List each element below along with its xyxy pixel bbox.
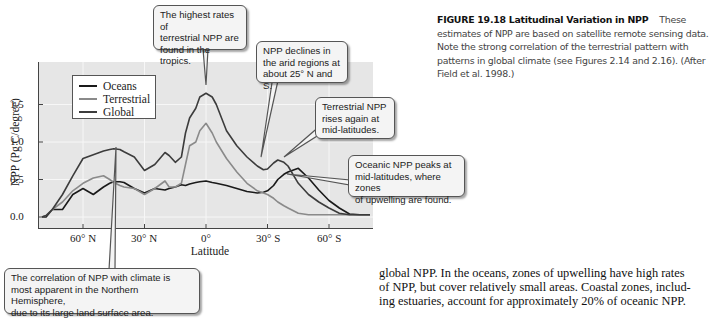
legend-swatch-oceans <box>79 85 97 87</box>
callout-oceanic: Oceanic NPP peaks at mid-latitudes, wher… <box>348 155 465 197</box>
y-tick-0: 0.0 <box>10 210 24 222</box>
legend-label-terrestrial: Terrestrial <box>103 93 150 105</box>
x-tick-30s: 30° S <box>256 232 280 244</box>
body-line-3: ing estuaries, account for approximately… <box>379 294 719 308</box>
legend-item-global: Global <box>79 105 155 118</box>
legend-label-oceans: Oceans <box>103 80 137 92</box>
body-line-2: of NPP, but cover relatively small areas… <box>379 280 719 294</box>
callout-northern-line-1: The correlation of NPP with climate is <box>11 272 193 284</box>
callout-northern-line-2: most apparent in the Northern Hemisphere… <box>11 284 193 307</box>
callout-northern-hemisphere: The correlation of NPP with climate is m… <box>4 268 200 314</box>
body-paragraph: global NPP. In the oceans, zones of upwe… <box>379 266 719 309</box>
legend-label-global: Global <box>103 106 134 118</box>
chart-legend: Oceans Terrestrial Global <box>72 75 156 119</box>
callout-oceanic-line-3: of upwelling are found. <box>355 194 458 206</box>
callout-arid-line-3: about 25° N and S. <box>263 68 341 91</box>
callout-arid-line-2: the arid regions at <box>263 57 341 69</box>
callout-tropics-line-2: terrestrial NPP are <box>160 32 240 44</box>
x-tick-60s: 60° S <box>317 232 341 244</box>
callout-midlat-line-1: Terrestrial NPP <box>322 101 388 113</box>
legend-item-terrestrial: Terrestrial <box>79 92 155 105</box>
caption-heading: FIGURE 19.18 Latitudinal Variation in NP… <box>437 14 648 25</box>
x-axis-label: Latitude <box>180 245 240 257</box>
legend-swatch-terrestrial <box>79 98 97 100</box>
x-tick-0: 0° <box>201 232 211 244</box>
figure-caption: FIGURE 19.18 Latitudinal Variation in NP… <box>437 13 719 81</box>
y-axis-label: NPP (Pg C/degree) <box>9 87 21 197</box>
callout-midlat-line-2: rises again at <box>322 113 388 125</box>
legend-item-oceans: Oceans <box>79 79 155 92</box>
callout-oceanic-line-2: mid-latitudes, where zones <box>355 171 458 194</box>
legend-swatch-global <box>79 111 97 113</box>
callout-tropics: The highest rates of terrestrial NPP are… <box>153 5 247 50</box>
body-line-1: global NPP. In the oceans, zones of upwe… <box>379 266 719 280</box>
callout-tropics-line-1: The highest rates of <box>160 9 240 32</box>
x-tick-30n: 30° N <box>131 232 157 244</box>
callout-northern-line-3: due to its large land surface area. <box>11 307 193 318</box>
callout-arid: NPP declines in the arid regions at abou… <box>256 41 348 83</box>
callout-arid-line-1: NPP declines in <box>263 45 341 57</box>
callout-oceanic-line-1: Oceanic NPP peaks at <box>355 159 458 171</box>
callout-midlat-terrestrial: Terrestrial NPP rises again at mid-latit… <box>315 97 395 139</box>
x-tick-60n: 60° N <box>70 232 96 244</box>
callout-tropics-line-3: found in the tropics. <box>160 44 240 67</box>
callout-midlat-line-3: mid-latitudes. <box>322 124 388 136</box>
